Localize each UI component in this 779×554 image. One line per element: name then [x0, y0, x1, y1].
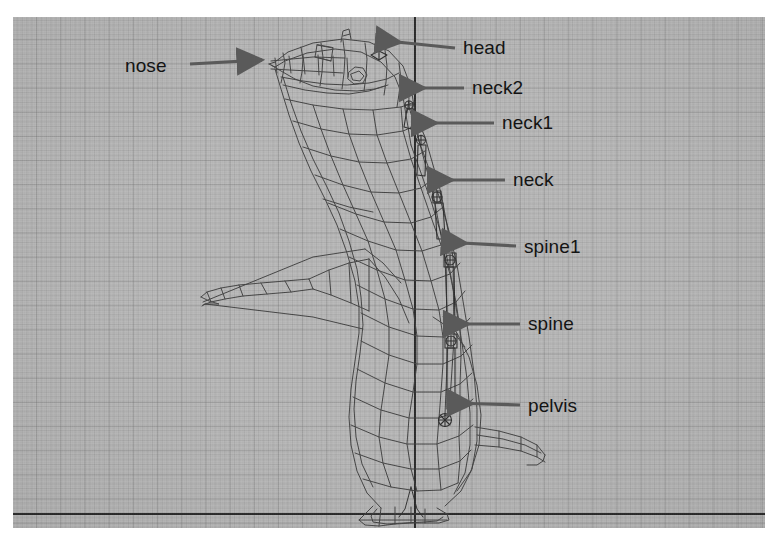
bone-label-neck: neck [513, 170, 554, 189]
penguin-wireframe-model[interactable] [13, 17, 765, 528]
bone-label-neck1: neck1 [502, 113, 553, 132]
screenshot-root: nose head neck2 neck1 neck spine1 spine … [0, 0, 779, 554]
bone-label-neck2: neck2 [472, 78, 523, 97]
3d-viewport[interactable] [13, 17, 765, 528]
bone-label-nose: nose [125, 56, 167, 75]
bone-label-spine: spine [528, 314, 574, 333]
bone-label-head: head [463, 38, 506, 57]
bone-label-pelvis: pelvis [528, 396, 577, 415]
bone-label-spine1: spine1 [524, 237, 581, 256]
